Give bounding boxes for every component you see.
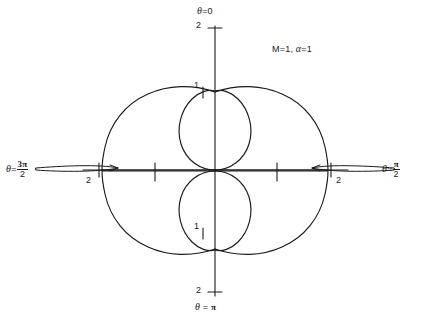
axis-label-theta-3pi-over-2: θ=3π2 xyxy=(6,160,28,179)
fraction-numerator-left: 3π xyxy=(17,160,29,170)
fraction-pi-over-2: π2 xyxy=(393,160,400,179)
major-lobe-left-lower xyxy=(102,171,215,254)
major-lobe-right-lower xyxy=(215,171,328,254)
axis-label-theta-0: θ=0 xyxy=(197,6,213,17)
parameter-annotation: M=1, α=1 xyxy=(272,44,312,55)
fraction-denominator-left: 2 xyxy=(17,170,29,179)
fraction-numerator-right: π xyxy=(393,160,400,170)
major-lobe-left xyxy=(102,87,215,170)
polar-plot-canvas xyxy=(0,0,429,321)
tick-label-left-2: 2 xyxy=(86,176,91,185)
tick-label-inner-up-1: 1 xyxy=(194,81,199,90)
param-M-label: M xyxy=(272,44,280,54)
equals-bottom: = xyxy=(203,302,208,312)
tick-label-top-2: 2 xyxy=(196,21,201,30)
pi-symbol-bottom: π xyxy=(211,302,216,312)
axis-label-theta-pi-over-2: θ=π2 xyxy=(382,160,400,179)
theta-symbol-bottom: θ xyxy=(195,301,200,312)
major-lobe-right xyxy=(215,87,328,170)
fraction-3pi-over-2: 3π2 xyxy=(17,160,29,179)
axis-label-theta-pi: θ = π xyxy=(195,302,216,313)
polar-figure: θ=0 2 2 θ = π θ=3π2 2 2 θ=π2 1 1 M=1, α=… xyxy=(0,0,429,321)
param-alpha-value: 1 xyxy=(307,44,312,54)
tick-label-inner-down-1: 1 xyxy=(194,222,199,231)
fraction-denominator-right: 2 xyxy=(393,170,400,179)
tick-label-bottom-2: 2 xyxy=(196,286,201,295)
theta-value-top: 0 xyxy=(208,6,213,16)
tick-label-right-2: 2 xyxy=(336,176,341,185)
